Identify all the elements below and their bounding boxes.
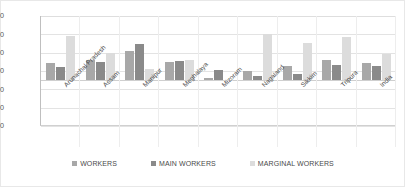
bar-slot — [293, 16, 302, 125]
bar-slot — [332, 16, 341, 125]
bar-slot — [243, 16, 252, 125]
bar-group — [357, 16, 396, 125]
bar-slot — [96, 16, 105, 125]
legend-label: WORKERS — [80, 160, 117, 167]
bar-slot — [175, 16, 184, 125]
bar[interactable] — [243, 71, 252, 80]
bar[interactable] — [175, 61, 184, 80]
bar-groups — [41, 16, 396, 125]
bar-slot — [342, 16, 351, 125]
bar-slot — [165, 16, 174, 125]
bar-slot — [214, 16, 223, 125]
bar[interactable] — [253, 76, 262, 81]
bar[interactable] — [293, 74, 302, 80]
bar-slot — [263, 16, 272, 125]
bar-slot — [86, 16, 95, 125]
chart-legend: WORKERSMAIN WORKERSMARGINAL WORKERS — [0, 160, 406, 167]
bar-slot — [372, 16, 381, 125]
bar-slot — [56, 16, 65, 125]
legend-swatch-icon — [250, 161, 255, 166]
bar[interactable] — [56, 67, 65, 80]
legend-swatch-icon — [151, 161, 156, 166]
bar-chart: 7.005.003.001.00-1.00-3.00-5.00 Arunacha… — [0, 0, 406, 188]
y-axis-tick-label: 7.00 — [0, 12, 4, 19]
bar[interactable] — [362, 63, 371, 80]
bar[interactable] — [204, 78, 213, 80]
bar-slot — [362, 16, 371, 125]
plot-area — [40, 16, 396, 126]
bar[interactable] — [165, 62, 174, 80]
bar-slot — [125, 16, 134, 125]
bar-slot — [322, 16, 331, 125]
legend-label: MAIN WORKERS — [159, 160, 216, 167]
legend-swatch-icon — [72, 161, 77, 166]
y-axis-tick-label: -3.00 — [0, 104, 4, 111]
legend-item[interactable]: MARGINAL WORKERS — [250, 160, 334, 167]
bar-slot — [204, 16, 213, 125]
y-axis-tick-label: -1.00 — [0, 86, 4, 93]
bar-group-bars — [357, 16, 396, 125]
bar[interactable] — [125, 51, 134, 80]
bar[interactable] — [135, 44, 144, 81]
y-axis-tick-label: 5.00 — [0, 31, 4, 38]
bar-slot — [253, 16, 262, 125]
bar-slot — [46, 16, 55, 125]
legend-item[interactable]: MAIN WORKERS — [151, 160, 216, 167]
bar[interactable] — [322, 60, 331, 80]
bar[interactable] — [46, 63, 55, 80]
bar[interactable] — [372, 66, 381, 80]
y-axis-tick-label: 1.00 — [0, 67, 4, 74]
bar[interactable] — [214, 70, 223, 80]
group-separator — [395, 16, 396, 147]
bar[interactable] — [332, 65, 341, 81]
legend-label: MARGINAL WORKERS — [258, 160, 334, 167]
bar-slot — [382, 16, 391, 125]
bar-slot — [135, 16, 144, 125]
bar-slot — [283, 16, 292, 125]
legend-item[interactable]: WORKERS — [72, 160, 117, 167]
y-axis-tick-label: -5.00 — [0, 122, 4, 129]
y-axis-tick-label: 3.00 — [0, 49, 4, 56]
gridline — [41, 126, 396, 127]
bar[interactable] — [96, 62, 105, 80]
